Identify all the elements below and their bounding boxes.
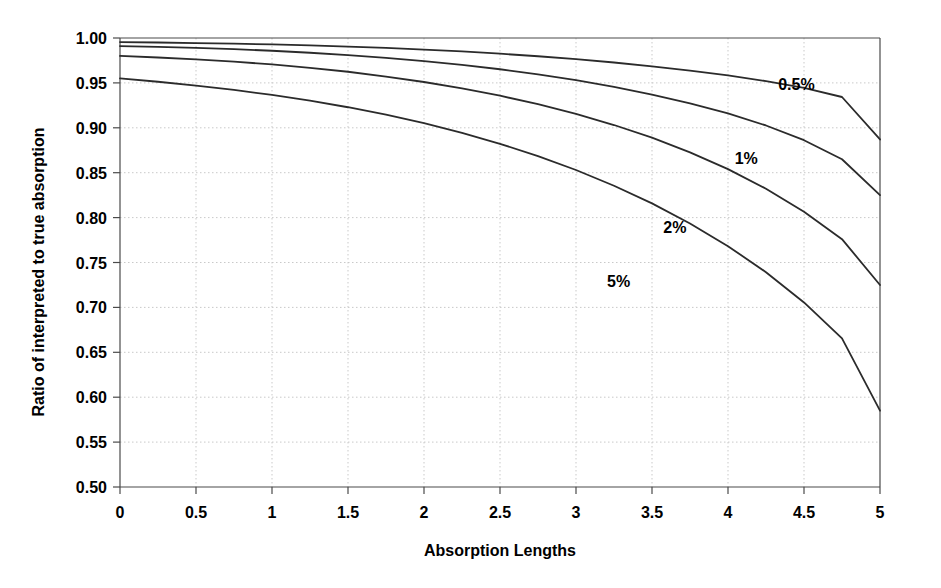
y-tick-label: 0.95	[76, 75, 107, 92]
x-tick-label: 3	[572, 504, 581, 521]
y-tick-label: 0.60	[76, 389, 107, 406]
line-chart: 0.500.550.600.650.700.750.800.850.900.95…	[0, 0, 941, 588]
y-tick-label: 0.70	[76, 299, 107, 316]
y-tick-label: 1.00	[76, 30, 107, 47]
series-label-2pct: 2%	[663, 219, 686, 236]
x-tick-label: 2.5	[489, 504, 511, 521]
y-tick-label: 0.80	[76, 210, 107, 227]
x-tick-label: 4	[724, 504, 733, 521]
x-tick-label: 2	[420, 504, 429, 521]
y-tick-label: 0.55	[76, 434, 107, 451]
x-tick-label: 0.5	[185, 504, 207, 521]
x-tick-label: 5	[876, 504, 885, 521]
chart-container: 0.500.550.600.650.700.750.800.850.900.95…	[0, 0, 941, 588]
x-tick-label: 0	[116, 504, 125, 521]
x-axis-title: Absorption Lengths	[424, 542, 576, 559]
y-tick-label: 0.90	[76, 120, 107, 137]
x-tick-label: 1.5	[337, 504, 359, 521]
x-tick-label: 3.5	[641, 504, 663, 521]
series-label-5pct: 5%	[607, 273, 630, 290]
y-tick-label: 0.75	[76, 255, 107, 272]
y-tick-label: 0.65	[76, 344, 107, 361]
x-tick-label: 4.5	[793, 504, 815, 521]
y-tick-label: 0.50	[76, 479, 107, 496]
series-label-0-5pct: 0.5%	[778, 76, 814, 93]
x-tick-label: 1	[268, 504, 277, 521]
y-axis-title: Ratio of interpreted to true absorption	[30, 128, 47, 417]
y-tick-label: 0.85	[76, 165, 107, 182]
series-label-1pct: 1%	[735, 150, 758, 167]
